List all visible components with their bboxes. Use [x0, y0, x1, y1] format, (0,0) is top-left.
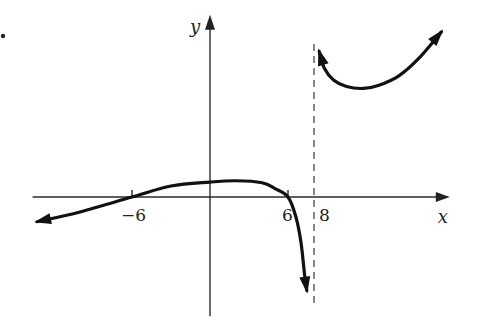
- y-axis-label: y: [189, 16, 201, 37]
- y-axis-arrowhead: [205, 15, 215, 30]
- x-tick-label: 6: [282, 205, 293, 225]
- curve-arrowhead: [318, 49, 329, 67]
- x-tick-label: −6: [121, 205, 146, 225]
- problem-bullet: [1, 34, 5, 38]
- curve-right-branch: [319, 32, 441, 89]
- curves: [34, 30, 443, 294]
- x-axis-label: x: [438, 206, 448, 227]
- x-ticks: −668: [121, 190, 330, 225]
- axes: x y: [33, 15, 450, 317]
- x-tick-label: 8: [319, 205, 330, 225]
- curve-arrowhead: [299, 276, 310, 294]
- function-graph: x y −668: [0, 0, 479, 331]
- curve-arrowhead: [34, 213, 52, 224]
- x-axis-arrowhead: [436, 192, 450, 202]
